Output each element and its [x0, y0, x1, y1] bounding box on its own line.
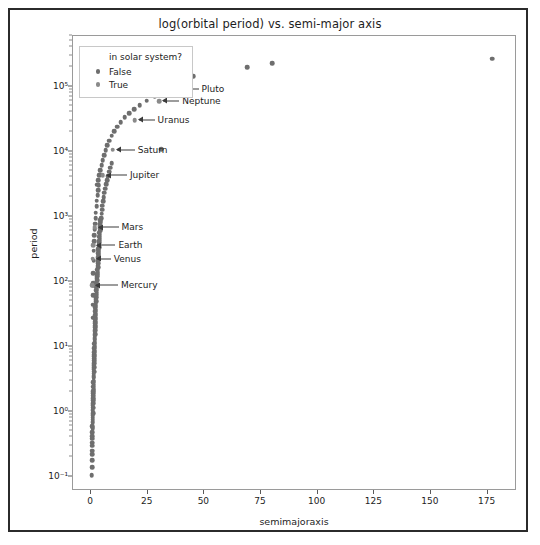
legend: in solar system? FalseTrue [79, 46, 193, 98]
scatter-point [98, 218, 103, 223]
scatter-point [90, 452, 95, 457]
x-tick-mark [373, 490, 374, 494]
scatter-point [90, 437, 95, 442]
scatter-point [95, 193, 100, 198]
scatter-point [97, 230, 102, 235]
y-axis-tick-label: 10³ [53, 211, 68, 221]
scatter-point [490, 56, 495, 61]
y-axis-tick-label: 10¹ [53, 341, 68, 351]
scatter-point [93, 305, 98, 310]
x-axis-tick-label: 75 [254, 496, 265, 506]
scatter-point [90, 256, 95, 261]
scatter-point [101, 199, 106, 204]
scatter-point [101, 158, 106, 163]
y-axis-tick-label: 10² [53, 276, 68, 286]
scatter-point [92, 354, 97, 359]
y-axis-tick-label: 10⁻¹ [48, 471, 68, 481]
x-tick-mark [260, 490, 261, 494]
scatter-point [270, 61, 275, 66]
annotation-label: Saturn [138, 145, 168, 155]
annotation-label: Jupiter [130, 170, 159, 180]
scatter-point [127, 111, 132, 116]
x-tick-mark [90, 490, 91, 494]
annotation-label: Venus [114, 254, 141, 264]
legend-marker-icon [96, 69, 101, 74]
annotation-label: Uranus [158, 115, 190, 125]
scatter-point [91, 389, 96, 394]
scatter-point [105, 143, 110, 148]
annotation-arrow [97, 245, 115, 246]
scatter-point [109, 161, 114, 166]
scatter-point [94, 198, 99, 203]
scatter-point [115, 125, 120, 130]
scatter-point [92, 329, 97, 334]
scatter-point [91, 371, 96, 376]
scatter-point [92, 363, 97, 368]
scatter-point [94, 204, 99, 209]
scatter-point [91, 243, 96, 248]
scatter-point [91, 398, 96, 403]
scatter-point [102, 195, 107, 200]
scatter-point [95, 263, 100, 268]
x-tick-mark [430, 490, 431, 494]
figure-frame: log(orbital period) vs. semi-major axis … [8, 8, 528, 532]
scatter-point [90, 465, 95, 470]
legend-item[interactable]: True [87, 78, 182, 91]
scatter-point [95, 272, 100, 277]
scatter-point [90, 408, 95, 413]
annotation-arrow [139, 119, 155, 120]
legend-item-label: False [109, 67, 132, 77]
scatter-point [132, 107, 137, 112]
scatter-point [91, 385, 96, 390]
scatter-point [92, 337, 97, 342]
legend-swatch-box [87, 69, 109, 74]
scatter-point [108, 165, 113, 170]
scatter-point [92, 350, 97, 355]
legend-item[interactable]: False [87, 65, 182, 78]
scatter-point [95, 276, 100, 281]
scatter-point [96, 188, 101, 193]
scatter-point [157, 99, 162, 104]
annotation-label: Mars [122, 222, 144, 232]
scatter-point [138, 103, 143, 108]
scatter-point [90, 443, 95, 448]
scatter-point [90, 473, 95, 478]
legend-entries: FalseTrue [87, 65, 182, 91]
x-axis-tick-label: 50 [198, 496, 209, 506]
scatter-point [93, 309, 98, 314]
scatter-point [97, 234, 102, 239]
scatter-point [94, 288, 99, 293]
scatter-point [118, 120, 123, 125]
scatter-point [91, 393, 96, 398]
x-tick-mark [147, 490, 148, 494]
scatter-point [132, 118, 137, 123]
y-axis-label: period [28, 214, 39, 274]
scatter-point [105, 178, 110, 183]
scatter-point [91, 376, 96, 381]
scatter-point [91, 367, 96, 372]
x-axis-tick-label: 125 [365, 496, 382, 506]
x-axis-tick-label: 25 [141, 496, 152, 506]
y-axis-tick-label: 10⁴ [53, 146, 68, 156]
scatter-point [90, 417, 95, 422]
scatter-point [92, 333, 97, 338]
scatter-point [245, 65, 250, 70]
x-axis-tick-label: 0 [87, 496, 93, 506]
scatter-point [92, 225, 97, 230]
scatter-point [92, 346, 97, 351]
scatter-point [93, 317, 98, 322]
scatter-point [122, 115, 127, 120]
scatter-point [103, 186, 108, 191]
x-axis-label: semimajoraxis [72, 516, 516, 527]
annotation-label: Pluto [202, 84, 225, 94]
scatter-point [101, 173, 106, 178]
legend-item-label: True [109, 80, 128, 90]
scatter-point [93, 297, 98, 302]
scatter-point [102, 191, 107, 196]
scatter-point [91, 380, 96, 385]
y-axis-tick-label: 10⁰ [53, 406, 68, 416]
scatter-point [91, 403, 96, 408]
legend-title: in solar system? [109, 52, 182, 62]
scatter-point [107, 138, 112, 143]
scatter-point [90, 424, 95, 429]
